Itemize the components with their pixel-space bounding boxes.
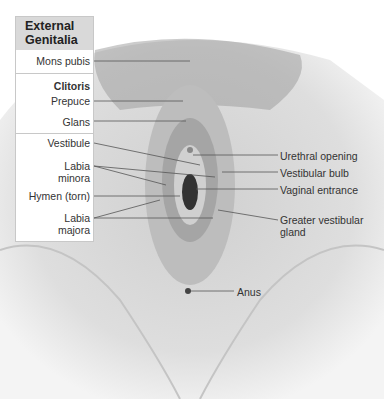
label-mons-pubis: Mons pubis <box>15 55 90 67</box>
label-glans: Glans <box>15 116 90 128</box>
label-labia-minora: Labia minora <box>40 160 90 184</box>
label-vaginal-entrance: Vaginal entrance <box>280 184 380 196</box>
label-vestibular-bulb: Vestibular bulb <box>280 167 349 179</box>
external-genitalia-panel: External Genitalia <box>15 16 94 242</box>
label-greater-vestibular-gland: Greater vestibular gland <box>280 214 365 238</box>
label-hymen: Hymen (torn) <box>15 190 90 202</box>
label-urethral-opening: Urethral opening <box>280 150 358 162</box>
label-labia-majora: Labia majora <box>40 212 90 236</box>
panel-title: External Genitalia <box>16 17 93 50</box>
label-vestibule: Vestibule <box>15 137 90 149</box>
label-clitoris: Clitoris <box>15 80 90 92</box>
label-anus: Anus <box>237 286 261 298</box>
label-prepuce: Prepuce <box>15 95 90 107</box>
